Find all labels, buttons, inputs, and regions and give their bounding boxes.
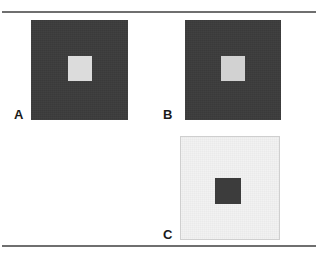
panel-a-label: A — [14, 108, 23, 121]
panel-b — [185, 20, 281, 120]
panel-b-light-target — [221, 56, 245, 81]
panel-a — [31, 20, 128, 120]
panel-b-label: B — [163, 108, 172, 121]
figure-canvas: A B C — [0, 0, 324, 255]
bottom-rule — [2, 245, 316, 247]
panel-c — [180, 136, 280, 240]
top-rule — [2, 11, 316, 13]
panel-c-dark-target — [215, 178, 241, 204]
panel-a-light-target — [68, 56, 92, 81]
panel-c-label: C — [163, 228, 172, 241]
